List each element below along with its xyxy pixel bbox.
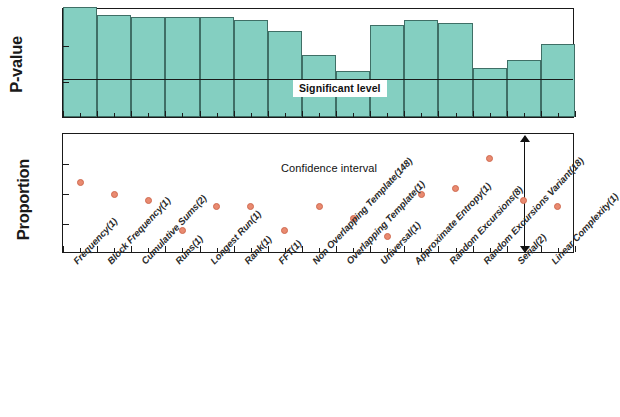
pvalue-x-tick	[63, 111, 64, 117]
pvalue-bar	[63, 7, 97, 117]
proportion-x-tick	[200, 246, 201, 252]
significance-level-label: Significant level	[293, 80, 387, 97]
proportion-data-point	[281, 227, 288, 234]
confidence-interval-label: Confidence interval	[281, 162, 377, 174]
pvalue-x-tick	[302, 111, 303, 117]
proportion-x-tick	[336, 246, 337, 252]
proportion-axis-title: Proportion	[14, 145, 33, 255]
pvalue-x-tick	[200, 111, 201, 117]
proportion-data-point	[77, 179, 84, 186]
pvalue-x-tick-minor	[251, 113, 252, 117]
pvalue-x-tick	[97, 111, 98, 117]
pvalue-x-tick	[473, 111, 474, 117]
proportion-data-point	[213, 203, 220, 210]
pvalue-x-tick-minor	[319, 113, 320, 117]
pvalue-x-tick-minor	[421, 113, 422, 117]
pvalue-x-tick	[165, 111, 166, 117]
pvalue-x-tick-minor	[490, 113, 491, 117]
pvalue-bar	[473, 68, 507, 117]
x-axis-labels: Frequency(1)Block Frequency(1)Cumulative…	[62, 255, 574, 417]
proportion-x-tick	[404, 246, 405, 252]
proportion-y-tick	[63, 224, 69, 225]
proportion-x-tick	[165, 246, 166, 252]
pvalue-x-tick	[438, 111, 439, 117]
confidence-interval-bar	[524, 136, 525, 252]
proportion-x-tick	[438, 246, 439, 252]
pvalue-bar	[97, 15, 131, 117]
pvalue-bar	[268, 31, 302, 117]
confidence-interval-arrow-up	[520, 135, 530, 142]
pvalue-bar	[165, 17, 199, 117]
pvalue-bar	[507, 60, 541, 117]
pvalue-x-tick-minor	[148, 113, 149, 117]
pvalue-x-tick	[541, 111, 542, 117]
pvalue-x-tick	[575, 111, 576, 117]
pvalue-bar	[234, 20, 268, 117]
pvalue-x-tick	[234, 111, 235, 117]
pvalue-x-tick-minor	[558, 113, 559, 117]
proportion-y-tick	[63, 194, 69, 195]
pvalue-plot-area: Significant level	[63, 9, 573, 117]
pvalue-x-tick-minor	[285, 113, 286, 117]
pvalue-y-tick	[63, 82, 69, 83]
pvalue-x-tick-minor	[217, 113, 218, 117]
proportion-data-point	[520, 197, 527, 204]
pvalue-x-tick	[404, 111, 405, 117]
pvalue-bar	[370, 25, 404, 117]
proportion-data-point	[111, 191, 118, 198]
proportion-data-point	[452, 185, 459, 192]
pvalue-bar	[200, 17, 234, 117]
proportion-x-tick	[131, 246, 132, 252]
pvalue-bar	[131, 17, 165, 117]
proportion-data-point	[486, 155, 493, 162]
pvalue-x-tick-minor	[114, 113, 115, 117]
pvalue-x-tick	[131, 111, 132, 117]
pvalue-bar	[404, 20, 438, 117]
pvalue-x-tick-minor	[80, 113, 81, 117]
proportion-x-tick	[575, 246, 576, 252]
proportion-data-point	[384, 233, 391, 240]
pvalue-x-tick-minor	[387, 113, 388, 117]
pvalue-x-tick	[370, 111, 371, 117]
proportion-data-point	[554, 203, 561, 210]
pvalue-x-tick	[507, 111, 508, 117]
pvalue-chart-panel: Significant level	[62, 8, 574, 118]
pvalue-bar	[438, 23, 472, 117]
pvalue-y-tick	[63, 46, 69, 47]
pvalue-axis-title: P-value	[7, 25, 26, 105]
proportion-x-tick	[63, 246, 64, 252]
proportion-x-tick	[370, 246, 371, 252]
proportion-y-tick	[63, 164, 69, 165]
proportion-data-point	[316, 203, 323, 210]
pvalue-x-tick-minor	[353, 113, 354, 117]
proportion-x-tick	[97, 246, 98, 252]
pvalue-x-tick	[336, 111, 337, 117]
pvalue-x-tick-minor	[524, 113, 525, 117]
proportion-data-point	[145, 197, 152, 204]
pvalue-x-tick-minor	[456, 113, 457, 117]
pvalue-x-tick-minor	[182, 113, 183, 117]
pvalue-x-tick	[268, 111, 269, 117]
